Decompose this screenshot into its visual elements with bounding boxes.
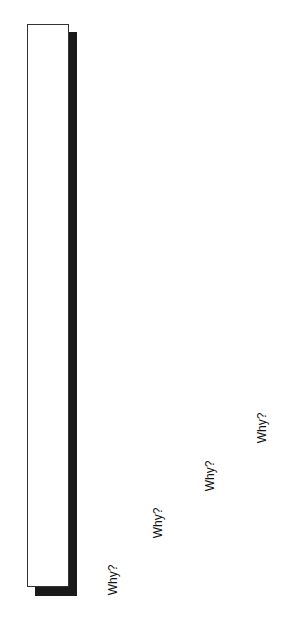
vertical-box [27, 24, 69, 587]
why-label-2: Why? [150, 503, 166, 543]
why-label-1: Why? [105, 560, 121, 600]
why-label-4: Why? [254, 408, 270, 448]
why-label-3: Why? [202, 456, 218, 496]
